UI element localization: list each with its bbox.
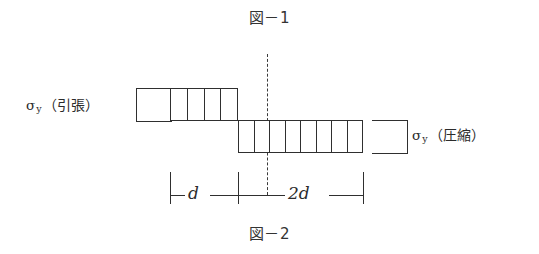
stress-block-cell [301,121,317,152]
tension-qualifier-label: （引張） [43,97,99,113]
stress-block-cell [332,121,348,152]
dimension-tick-middle [238,172,239,204]
compression-qualifier-label: （圧縮） [429,127,485,143]
stress-block-cell [221,89,237,120]
dimension-rule-d-right [210,195,238,196]
tension-bracket-bottom-arm [136,121,172,122]
dimension-tick-right [363,172,364,204]
dimension-rule-2d-right [329,195,363,196]
compression-bracket-top-arm [372,120,408,121]
stress-block-cell [239,121,255,152]
stress-block-cell [348,121,363,152]
dimension-rule-2d-left [238,195,285,196]
tension-bracket-top-arm [136,88,172,89]
stress-block-cell [286,121,302,152]
sigma-symbol-compression: σ [412,127,421,143]
compression-bracket-stem [407,120,408,153]
stress-block-cell [171,89,188,120]
tension-bracket-stem [136,88,137,121]
stress-block-cell [255,121,271,152]
compressive-stress-block [238,120,363,153]
compression-bracket-bottom-arm [372,153,408,154]
compression-stress-label: σy（圧縮） [412,128,485,144]
dimension-label-2d: 2d [288,185,310,202]
stress-block-cell [205,89,222,120]
tension-stress-label: σy（引張） [26,98,99,114]
tensile-stress-block [170,88,238,121]
stress-block-cell [317,121,333,152]
sigma-symbol-tension: σ [26,97,35,113]
stress-distribution-figure: 図－1 σy（引張） σy（圧縮） d [0,0,539,254]
dimension-tick-left [170,172,171,204]
sigma-subscript-tension: y [35,103,42,114]
dimension-rule-d-left [170,195,185,196]
stress-block-cell [188,89,205,120]
stress-block-cell [270,121,286,152]
sigma-subscript-compression: y [421,133,428,144]
figure-caption-bottom: 図－2 [0,222,539,243]
figure-caption-top: 図－1 [0,6,539,27]
dimension-label-d: d [188,185,199,202]
